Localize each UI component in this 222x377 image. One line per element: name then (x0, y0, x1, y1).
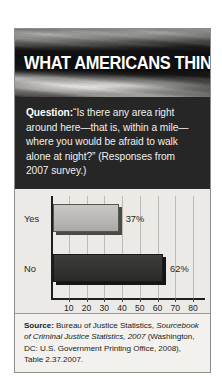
bar-row: No62% (21, 254, 204, 284)
x-axis-tick (140, 298, 141, 302)
chart-container: Yes37%No62% 1020304050607080 (15, 189, 210, 314)
x-axis-tick (158, 298, 159, 302)
bar-yes (53, 204, 119, 232)
x-axis-tick (69, 298, 70, 302)
source-citation: Source: Bureau of Justice Statistics, So… (15, 313, 210, 372)
bar-value-label: 37% (126, 214, 145, 224)
x-axis-tick-label: 50 (135, 303, 145, 313)
x-axis-line (51, 298, 205, 300)
bar-chart-plot-area: Yes37%No62% 1020304050607080 (21, 196, 204, 312)
x-axis-tick-label: 80 (188, 303, 198, 313)
x-axis-tick-label: 20 (82, 303, 92, 313)
x-axis-tick-label: 60 (153, 303, 163, 313)
x-axis-tick (122, 298, 123, 302)
card-header: WHAT AMERICANS THINK (15, 29, 210, 97)
bar-category-label: No (24, 264, 36, 274)
x-axis-tick-label: 40 (117, 303, 127, 313)
x-axis-tick-label: 30 (99, 303, 109, 313)
bar-no (53, 254, 163, 282)
bar-row: Yes37% (21, 204, 204, 234)
page-title: WHAT AMERICANS THINK (24, 54, 193, 73)
x-axis-tick-label: 70 (170, 303, 180, 313)
x-axis-tick (193, 298, 194, 302)
x-axis-tick (175, 298, 176, 302)
x-axis-tick (104, 298, 105, 302)
bar-category-label: Yes (24, 214, 39, 224)
x-axis-tick-label: 10 (64, 303, 74, 313)
source-label: Source: (24, 321, 54, 330)
question-block: Question:“Is there any area right around… (15, 97, 210, 189)
bar-value-label: 62% (170, 264, 189, 274)
question-label: Question: (26, 107, 73, 118)
source-part-1: Bureau of Justice Statistics, (54, 321, 156, 330)
what-americans-think-card: WHAT AMERICANS THINK Question:“Is there … (14, 28, 211, 373)
x-axis-tick (87, 298, 88, 302)
